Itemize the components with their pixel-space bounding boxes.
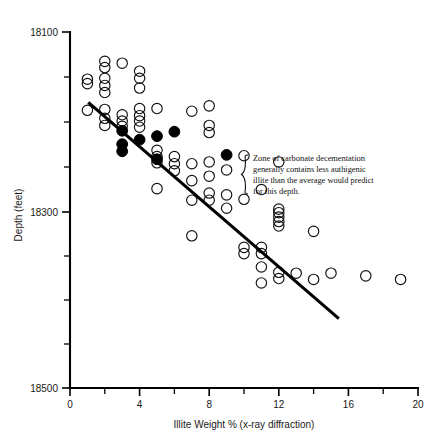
data-point	[187, 159, 197, 169]
x-tick-label-16: 16	[343, 399, 355, 410]
data-point	[187, 175, 197, 185]
data-point	[308, 226, 318, 236]
data-point	[256, 278, 266, 288]
y-tick-label-18500: 18500	[30, 383, 58, 394]
data-point	[361, 271, 371, 281]
x-tick-label-8: 8	[206, 399, 212, 410]
x-axis-title: Illite Weight % (x-ray diffraction)	[174, 419, 315, 430]
data-point	[152, 103, 162, 113]
annotation-line-1: Zone of carbonate decementation	[253, 154, 366, 163]
data-point	[221, 203, 231, 213]
data-point	[239, 194, 249, 204]
data-point	[134, 122, 144, 132]
data-point	[100, 87, 110, 97]
data-point	[204, 127, 214, 137]
data-point	[239, 242, 249, 252]
data-point	[326, 268, 336, 278]
data-point	[221, 149, 232, 160]
data-point	[239, 151, 249, 161]
data-point	[187, 231, 197, 241]
x-tick-label-20: 20	[412, 399, 424, 410]
x-tick-label-4: 4	[137, 399, 143, 410]
data-point	[117, 58, 127, 68]
plot-canvas: 18100 18300 18500 0 4 8 12 16 20	[0, 0, 441, 448]
annotation-line-4: for this depth.	[253, 187, 300, 196]
x-tick-label-0: 0	[67, 399, 73, 410]
data-point	[204, 101, 214, 111]
annotation-text-group: Zone of carbonate decementation generall…	[253, 154, 374, 196]
x-axis-tick-labels: 0 4 8 12 16 20	[67, 399, 424, 410]
data-point	[204, 157, 214, 167]
axes-group	[70, 32, 418, 388]
data-point	[169, 126, 180, 137]
data-point	[239, 248, 249, 258]
data-point	[221, 165, 231, 175]
x-tick-label-12: 12	[273, 399, 285, 410]
data-point	[134, 83, 144, 93]
data-point	[187, 106, 197, 116]
scatter-plot-figure: 18100 18300 18500 0 4 8 12 16 20	[0, 0, 441, 448]
y-axis-tick-labels: 18100 18300 18500	[30, 27, 58, 394]
data-point	[256, 262, 266, 272]
data-point	[100, 56, 110, 66]
data-point	[204, 171, 214, 181]
annotation-line-2: generally contains less authigenic	[253, 165, 366, 174]
data-point	[274, 273, 284, 283]
data-point	[152, 183, 162, 193]
data-point	[152, 131, 163, 142]
x-axis-ticks	[70, 388, 418, 396]
y-axis-ticks	[62, 32, 70, 388]
annotation-line-3: illite than the average would predict	[253, 176, 374, 185]
data-point	[308, 274, 318, 284]
data-point	[100, 120, 110, 130]
data-point	[221, 190, 231, 200]
data-point	[100, 62, 110, 72]
y-tick-label-18300: 18300	[30, 207, 58, 218]
data-point	[395, 274, 405, 284]
data-point	[117, 146, 128, 157]
data-point	[134, 73, 144, 83]
data-point	[117, 110, 127, 120]
y-axis-title: Depth (feet)	[13, 189, 24, 242]
y-tick-label-18100: 18100	[30, 27, 58, 38]
